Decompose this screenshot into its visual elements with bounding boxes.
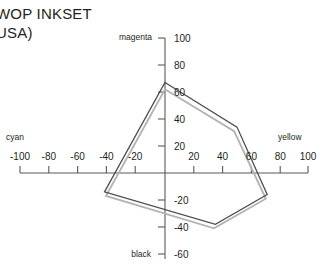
x-tick-label--80: -80 [42,151,57,162]
y-tick-labels-up: 100 80 60 40 20 [174,33,191,152]
y-tick-label--60: -60 [174,249,189,260]
x-tick-label--20: -20 [128,151,143,162]
x-axis [20,166,308,173]
x-tick-label-20: 20 [188,151,200,162]
x-tick-label-40: 40 [217,151,229,162]
chart-root: WOP INKSET USA) [0,0,329,279]
axis-label-black: black [131,249,152,259]
y-axis [158,38,165,259]
x-tick-label-100: 100 [300,151,317,162]
x-tick-labels-left: -100 -80 -60 -40 -20 [10,151,143,162]
y-tick-label--20: -20 [174,195,189,206]
y-tick-labels-down: -20 -40 -60 [174,195,189,260]
y-tick-label-80: 80 [174,60,186,71]
axis-label-cyan: cyan [6,132,24,142]
x-tick-labels-right: 20 40 60 80 100 [188,151,317,162]
y-tick-label-100: 100 [174,33,191,44]
y-tick-label-60: 60 [174,87,186,98]
x-tick-label--40: -40 [99,151,114,162]
y-tick-label-40: 40 [174,114,186,125]
x-tick-label-60: 60 [246,151,258,162]
x-tick-label--100: -100 [10,151,30,162]
y-tick-label--40: -40 [174,222,189,233]
y-tick-label-20: 20 [174,141,186,152]
chart-canvas: -100 -80 -60 -40 -20 20 40 60 80 100 100… [0,0,329,279]
axis-label-magenta: magenta [119,32,152,42]
x-tick-label--60: -60 [70,151,85,162]
x-tick-label-80: 80 [275,151,287,162]
axis-label-yellow: yellow [278,132,302,142]
